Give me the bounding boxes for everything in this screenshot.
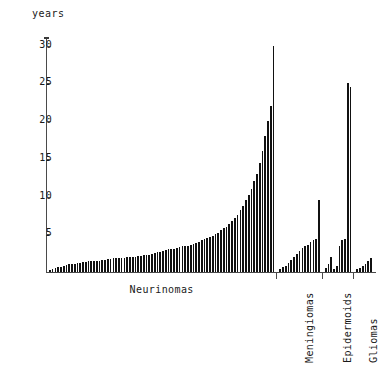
bar [179,247,181,272]
bar [173,249,175,272]
bar [126,257,128,272]
bar [285,266,287,272]
bar [193,244,195,272]
bar [182,246,184,272]
bar [93,261,95,272]
bar [315,239,317,272]
bar [220,230,222,272]
bar [209,237,211,272]
bar [365,264,367,272]
bar [154,253,156,272]
bar [137,256,139,272]
bar [253,181,255,272]
bar [104,260,106,272]
bar [318,200,320,272]
bar [359,268,361,272]
bar [88,261,90,272]
bar [187,246,189,272]
bar [148,255,150,272]
bar [362,266,364,272]
bar [63,266,65,272]
bar [333,269,335,272]
bar [99,261,101,272]
bar [77,263,79,272]
bar [336,266,338,272]
bar [57,267,59,272]
bar [242,206,244,272]
bar [85,262,87,272]
bar [165,250,167,272]
bar [234,218,236,272]
group-separator-tick [276,272,277,279]
bar [146,255,148,272]
bar [347,83,349,272]
bar [256,174,258,272]
bar [68,264,70,272]
bar [339,246,341,272]
bar [267,121,269,272]
bar [325,268,327,272]
bar [121,258,123,272]
group-label-neurinomas: Neurinomas [130,284,194,295]
bar [198,242,200,272]
x-axis-line [46,272,376,273]
bar [162,251,164,272]
bar [290,260,292,272]
bar [248,195,250,272]
bar [370,258,372,272]
bar [66,265,68,272]
bars-plot-area [47,38,377,272]
bar [356,269,358,272]
bar [344,239,346,272]
bar [135,257,137,272]
bar [96,261,98,272]
bar [299,251,301,272]
bar [132,257,134,272]
bar [279,269,281,272]
bar [124,258,126,272]
bar [115,258,117,272]
bar [228,224,230,272]
bar [184,246,186,272]
bar [107,259,109,272]
bar [313,240,315,272]
bar [341,240,343,272]
bar [168,249,170,272]
bar [367,261,369,272]
bar [206,238,208,272]
bar [240,210,242,272]
bar [52,269,54,272]
group-separator-tick [322,272,323,279]
bar [307,245,309,272]
bar [217,233,219,272]
bar [259,163,261,272]
bar [118,258,120,272]
bar [140,256,142,272]
bar [282,267,284,272]
bar [223,228,225,272]
bar [328,264,330,272]
bar [190,245,192,272]
bar [288,263,290,272]
group-label-gliomas: Gliomas [368,318,379,363]
bar [293,257,295,272]
bar [143,255,145,272]
bar [195,243,197,272]
bar [304,246,306,272]
bar [176,248,178,272]
bar [310,242,312,272]
bar [90,261,92,272]
bar [55,268,57,272]
bar [273,46,275,272]
group-separator-tick [353,272,354,279]
bar [71,264,73,272]
bar [226,227,228,272]
bar [129,257,131,272]
bar [170,249,172,272]
bar [82,262,84,272]
bar [264,136,266,272]
bar [231,221,233,272]
bar [74,264,76,272]
bar [215,234,217,272]
bar [251,189,253,272]
